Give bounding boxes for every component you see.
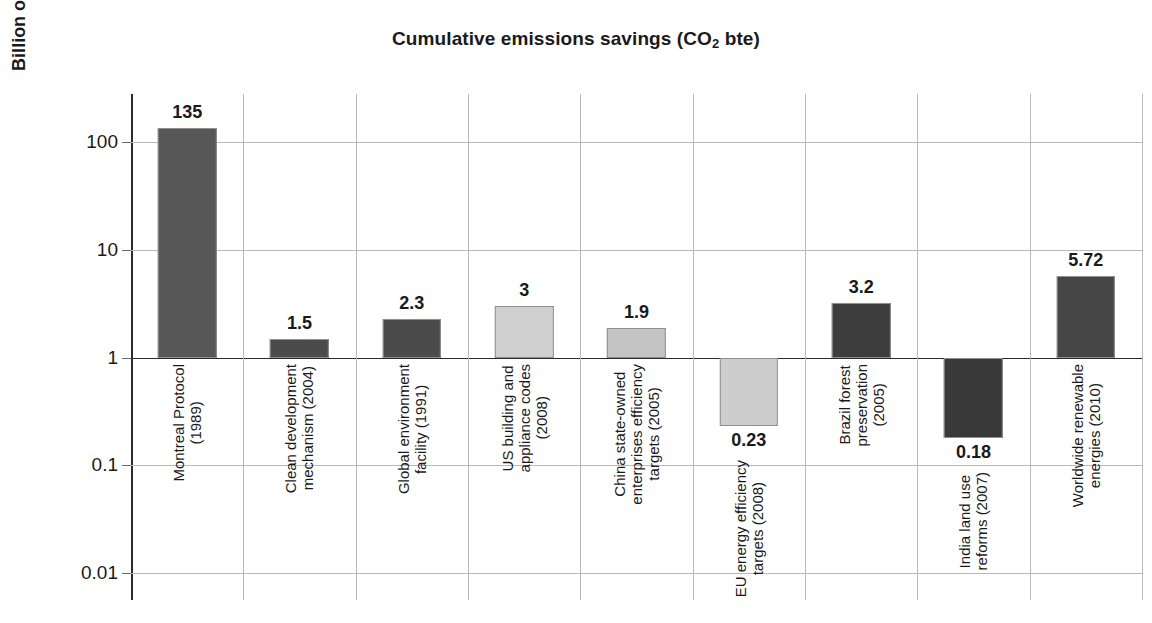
y-tick-mark (122, 573, 131, 574)
vertical-gridline (1142, 94, 1143, 600)
y-axis-title-main: Billion of tonnes CO (9, 0, 29, 71)
y-tick-label-1: 1 (0, 347, 118, 369)
bar-column[interactable]: 0.18India land usereforms (2007) (917, 94, 1029, 600)
bar-value-label: 1.5 (287, 313, 312, 334)
bar-value-label: 3.2 (849, 277, 874, 298)
bar[interactable] (720, 358, 778, 427)
bar-value-label: 5.72 (1068, 250, 1103, 271)
chart-root: Cumulative emissions savings (CO2 bte) B… (0, 0, 1152, 623)
bar[interactable] (495, 306, 553, 357)
category-label: US building andappliance codes(2008) (499, 364, 550, 472)
y-tick-label-0.1: 0.1 (0, 454, 118, 476)
category-label: China state-ownedenterprises efficiencyt… (611, 364, 662, 505)
bar-column[interactable]: 3US building andappliance codes(2008) (468, 94, 580, 600)
bar-column[interactable]: 5.72Worldwide renewableenergies (2010) (1030, 94, 1142, 600)
chart-title-tail: bte) (719, 28, 760, 49)
bar[interactable] (832, 303, 890, 357)
bar-value-label: 0.23 (731, 430, 766, 451)
category-label: EU energy efficiencytargets (2008) (732, 460, 766, 597)
bar[interactable] (158, 128, 216, 357)
bar[interactable] (1057, 276, 1115, 358)
y-tick-mark (122, 250, 131, 251)
bar[interactable] (944, 358, 1002, 438)
chart-title: Cumulative emissions savings (CO2 bte) (0, 28, 1152, 51)
bar-value-label: 135 (172, 102, 202, 123)
bar-column[interactable]: 3.2Brazil forestpreservation(2005) (805, 94, 917, 600)
bar[interactable] (607, 328, 665, 358)
y-axis-title: Billion of tonnes CO2 equivalent (log sc… (6, 0, 32, 122)
bar-value-label: 1.9 (624, 302, 649, 323)
y-tick-label-10: 10 (0, 239, 118, 261)
bar-value-label: 2.3 (399, 293, 424, 314)
bar-column[interactable]: 1.9China state-ownedenterprises efficien… (580, 94, 692, 600)
category-label: Brazil forestpreservation(2005) (836, 364, 887, 447)
chart-title-main: Cumulative emissions savings (CO (392, 28, 712, 49)
category-label: India land usereforms (2007) (956, 472, 990, 570)
bar-value-label: 0.18 (956, 442, 991, 463)
category-label: Worldwide renewableenergies (2010) (1069, 364, 1103, 507)
y-tick-label-100: 100 (0, 131, 118, 153)
bar-value-label: 3 (519, 280, 529, 301)
bar-column[interactable]: 135Montreal Protocol(1989) (131, 94, 243, 600)
y-tick-mark (122, 465, 131, 466)
plot-area: 1001010.10.01 135Montreal Protocol(1989)… (131, 94, 1142, 600)
y-tick-mark (122, 358, 131, 359)
category-label: Global environmentfacility (1991) (395, 364, 429, 494)
category-label: Montreal Protocol(1989) (170, 364, 204, 482)
y-tick-label-0.01: 0.01 (0, 562, 118, 584)
bar-column[interactable]: 1.5Clean developmentmechanism (2004) (243, 94, 355, 600)
bar-column[interactable]: 0.23EU energy efficiencytargets (2008) (693, 94, 805, 600)
bar[interactable] (270, 339, 328, 358)
y-tick-mark (122, 142, 131, 143)
bar[interactable] (383, 319, 441, 358)
bar-column[interactable]: 2.3Global environmentfacility (1991) (356, 94, 468, 600)
category-label: Clean developmentmechanism (2004) (282, 364, 316, 493)
